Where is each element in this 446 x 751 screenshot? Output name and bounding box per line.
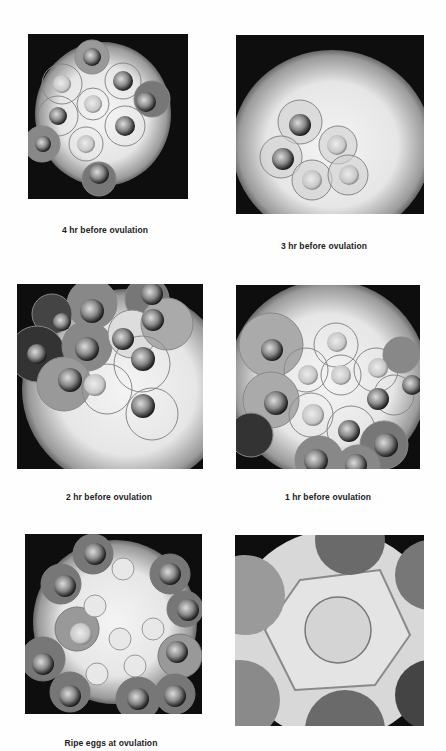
caption-3hr: 3 hr before ovulation [281,241,367,251]
egg-cluster-image [17,284,203,469]
egg-cluster-image [236,285,420,469]
egg-cluster-image [25,534,202,714]
micrograph-ovulation [25,534,202,714]
caption-4hr: 4 hr before ovulation [62,225,148,235]
egg-closeup-image [235,535,424,726]
micrograph-1hr [236,285,420,469]
egg-cluster-image [28,34,188,199]
micrograph-2hr [17,284,203,469]
caption-ovulation: Ripe eggs at ovulation [65,738,158,748]
micrograph-3hr [236,35,424,214]
caption-1hr: 1 hr before ovulation [285,492,371,502]
micrograph-closeup [235,535,424,726]
egg-cluster-image [236,35,424,214]
micrograph-4hr [28,34,188,199]
caption-2hr: 2 hr before ovulation [66,492,152,502]
